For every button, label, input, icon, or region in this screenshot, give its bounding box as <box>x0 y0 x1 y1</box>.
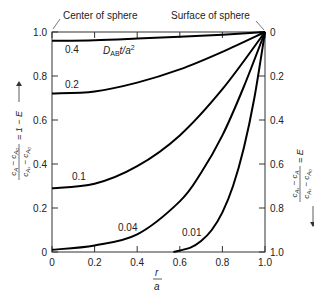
y-tick-label-right: 0.4 <box>270 115 284 126</box>
curve-label-0.04: 0.04 <box>118 222 138 233</box>
x-tick-label: 1.0 <box>258 257 272 268</box>
curve-label-0.1: 0.1 <box>72 171 86 182</box>
left-y-axis-label: cA − cA₀ cAₛ − cA₀ = 1 − E <box>9 81 31 180</box>
svg-text:cAₛ − cA₀: cAₛ − cA₀ <box>21 147 31 177</box>
curve-label-0.01: 0.01 <box>182 227 202 238</box>
y-tick-label-left: 0.4 <box>33 159 47 170</box>
x-tick-label: 0 <box>49 257 55 268</box>
y-tick-label-right: 0.8 <box>270 203 284 214</box>
y-tick-label-left: 1.0 <box>33 27 47 38</box>
surface-of-sphere-label: Surface of sphere <box>171 10 250 21</box>
y-tick-label-left: 0.6 <box>33 115 47 126</box>
curve-0.4 <box>52 32 265 41</box>
y-tick-label-left: 0 <box>41 247 47 258</box>
svg-text:cAₛ − cA: cAₛ − cA <box>290 170 300 197</box>
diffusion-sphere-chart: 00.20.40.60.81.0 00.20.40.60.81.0 1.00.8… <box>0 0 314 295</box>
y-tick-label-left: 0.2 <box>33 203 47 214</box>
svg-text:= 1 − E: = 1 − E <box>14 110 24 140</box>
curve-label-0.4: 0.4 <box>65 44 79 55</box>
svg-text:cAₛ − cA₀: cAₛ − cA₀ <box>302 169 312 199</box>
x-tick-label: 0.8 <box>215 257 229 268</box>
svg-text:a: a <box>154 281 160 292</box>
x-tick-label: 0.2 <box>88 257 102 268</box>
curve-0.04 <box>52 32 265 250</box>
svg-text:cA − cA₀: cA − cA₀ <box>9 148 19 176</box>
x-tick-labels: 00.20.40.60.81.0 <box>49 257 272 268</box>
parameter-label: DABt/a2 <box>103 44 135 57</box>
right-y-axis-label: cAₛ − cA cAₛ − cA₀ = E <box>290 148 314 227</box>
svg-text:= E: = E <box>295 148 305 163</box>
y-tick-label-right: 0.2 <box>270 71 284 82</box>
x-axis-label: r a <box>153 267 162 292</box>
center-of-sphere-label: Center of sphere <box>63 10 138 21</box>
x-tick-label: 0.6 <box>173 257 187 268</box>
y-tick-labels-right: 1.00.80.60.40.20 <box>270 27 284 258</box>
curve-label-0.2: 0.2 <box>65 79 79 90</box>
y-tick-label-right: 1.0 <box>270 247 284 258</box>
svg-text:r: r <box>155 267 159 278</box>
x-tick-label: 0.4 <box>130 257 144 268</box>
surface-pointer <box>256 21 264 30</box>
y-tick-label-left: 0.8 <box>33 71 47 82</box>
curves <box>52 32 265 252</box>
y-tick-labels-left: 00.20.40.60.81.0 <box>33 27 47 258</box>
center-pointer <box>53 19 60 29</box>
y-tick-label-right: 0 <box>270 27 276 38</box>
y-tick-label-right: 0.6 <box>270 159 284 170</box>
